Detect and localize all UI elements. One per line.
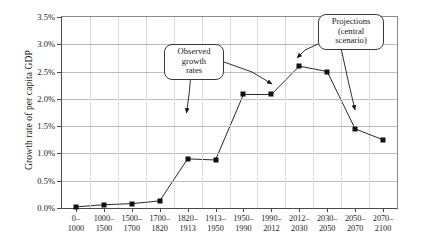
callout-observed-growth-rates: Observed growth rates xyxy=(164,44,224,80)
callout-observed-line-3: rates xyxy=(170,66,218,76)
chart-root: Growth rate of per capita GDP 0.0%0.5%1.… xyxy=(0,0,426,249)
callout-projections: Projections (central scenario) xyxy=(318,14,384,50)
callout-projections-line-3: scenario) xyxy=(324,36,378,46)
